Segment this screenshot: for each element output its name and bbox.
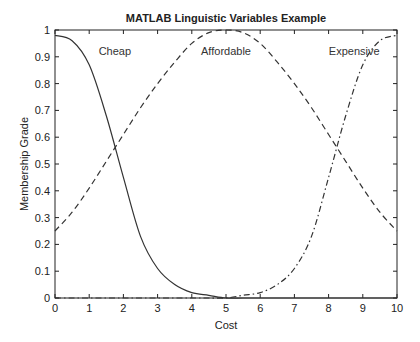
x-tick-label: 4	[189, 302, 195, 314]
label-expensive: Expensive	[329, 45, 380, 57]
x-tick-label: 3	[155, 302, 161, 314]
membership-chart: MATLAB Linguistic Variables Example 0123…	[0, 0, 420, 342]
label-cheap: Cheap	[99, 45, 131, 57]
y-tick-label: 0	[44, 292, 50, 304]
x-tick-label: 2	[120, 302, 126, 314]
label-affordable: Affordable	[201, 45, 251, 57]
x-tick-label: 5	[223, 302, 229, 314]
y-axis-label: Membership Grade	[18, 117, 30, 211]
plot-area	[55, 30, 397, 298]
y-tick-label: 0.7	[35, 104, 50, 116]
y-tick-label: 0.9	[35, 51, 50, 63]
y-tick-label: 0.1	[35, 265, 50, 277]
x-tick-label: 10	[391, 302, 403, 314]
x-tick-label: 7	[291, 302, 297, 314]
x-tick-label: 1	[86, 302, 92, 314]
y-tick-label: 0.3	[35, 212, 50, 224]
x-tick-label: 6	[257, 302, 263, 314]
y-tick-label: 0.6	[35, 131, 50, 143]
x-axis-label: Cost	[215, 319, 238, 331]
x-tick-label: 9	[360, 302, 366, 314]
y-tick-label: 0.5	[35, 158, 50, 170]
y-tick-label: 0.8	[35, 78, 50, 90]
chart-title: MATLAB Linguistic Variables Example	[126, 12, 326, 24]
y-tick-label: 0.4	[35, 185, 50, 197]
y-tick-label: 1	[44, 24, 50, 36]
x-tick-label: 8	[326, 302, 332, 314]
y-tick-label: 0.2	[35, 238, 50, 250]
x-tick-label: 0	[52, 302, 58, 314]
